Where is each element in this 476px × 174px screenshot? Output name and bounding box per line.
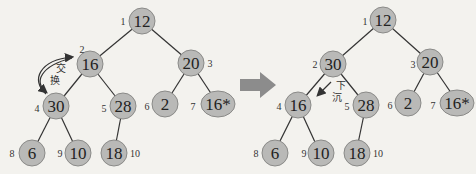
right-node-6: 2 6 [388, 90, 422, 116]
node-value: 12 [134, 12, 151, 31]
node-value: 30 [48, 97, 65, 116]
node-index: 7 [191, 101, 196, 112]
left-node-5: 28 5 [102, 93, 137, 119]
node-value: 20 [422, 53, 439, 72]
node-index: 10 [373, 148, 383, 159]
node-index: 10 [130, 148, 140, 159]
node-value: 18 [349, 144, 366, 163]
left-node-7: 16* 7 [191, 91, 236, 117]
node-value: 10 [70, 144, 87, 163]
left-node-9: 10 9 [58, 140, 92, 166]
node-value: 12 [375, 11, 392, 30]
left-tree-nodes: 12 1 16 2 20 3 30 4 28 5 2 6 [10, 8, 236, 166]
node-index: 3 [208, 58, 213, 69]
right-tree-edges [274, 20, 458, 153]
swap-label-char-1: 交 [56, 62, 66, 74]
sink-label-char-2: 沉 [332, 91, 342, 103]
sink-arrow: 下 沉 [318, 80, 346, 103]
node-value: 18 [106, 144, 123, 163]
node-index: 2 [80, 44, 85, 55]
left-tree-edges [32, 21, 218, 153]
right-node-3: 20 3 [411, 49, 444, 75]
right-arrow-icon [240, 72, 276, 98]
node-value: 16* [444, 94, 470, 113]
node-index: 7 [431, 100, 436, 111]
sink-label-char-1: 下 [336, 80, 346, 91]
right-node-8: 6 8 [254, 140, 289, 166]
node-value: 16 [290, 96, 307, 115]
node-value: 20 [183, 54, 200, 73]
left-node-10: 18 10 [101, 140, 140, 166]
node-value: 6 [28, 144, 37, 163]
right-node-4: 16 4 [277, 92, 312, 118]
node-index: 9 [302, 148, 307, 159]
left-node-8: 6 8 [10, 140, 46, 166]
left-node-4: 30 4 [35, 93, 70, 119]
left-node-2: 16 2 [77, 44, 103, 78]
node-value: 28 [115, 97, 132, 116]
right-node-9: 10 9 [302, 140, 335, 166]
left-node-6: 2 6 [145, 91, 179, 117]
swap-arrow: 交 换 [38, 57, 72, 94]
right-node-2: 30 2 [313, 51, 347, 77]
node-index: 2 [313, 59, 318, 70]
right-tree-nodes: 12 1 30 2 20 3 16 4 28 5 2 6 [254, 7, 475, 166]
node-value: 16 [82, 55, 99, 74]
node-value: 6 [271, 144, 280, 163]
node-index: 5 [345, 101, 350, 112]
right-node-10: 18 10 [344, 140, 383, 166]
node-value: 10 [313, 144, 330, 163]
node-index: 1 [121, 16, 126, 27]
swap-label-char-2: 换 [50, 74, 60, 86]
node-index: 5 [102, 103, 107, 114]
node-value: 2 [404, 94, 413, 113]
left-node-3: 20 3 [178, 50, 213, 76]
node-index: 4 [35, 103, 40, 114]
node-index: 6 [388, 100, 393, 111]
node-value: 16* [205, 95, 231, 114]
node-index: 3 [411, 59, 416, 70]
node-index: 9 [58, 148, 63, 159]
node-index: 8 [10, 148, 15, 159]
node-index: 8 [254, 148, 259, 159]
right-node-5: 28 5 [345, 92, 380, 118]
node-index: 6 [145, 101, 150, 112]
right-node-7: 16* 7 [431, 90, 475, 116]
node-index: 1 [363, 16, 368, 27]
heap-diagram: 交 换 12 1 16 2 20 3 30 4 28 5 [0, 0, 476, 174]
node-value: 28 [358, 96, 375, 115]
right-node-1: 12 1 [363, 7, 397, 33]
left-node-1: 12 1 [121, 8, 156, 34]
node-index: 4 [277, 101, 282, 112]
node-value: 2 [161, 95, 170, 114]
node-value: 30 [325, 55, 342, 74]
diagram-svg: 交 换 12 1 16 2 20 3 30 4 28 5 [0, 0, 476, 174]
